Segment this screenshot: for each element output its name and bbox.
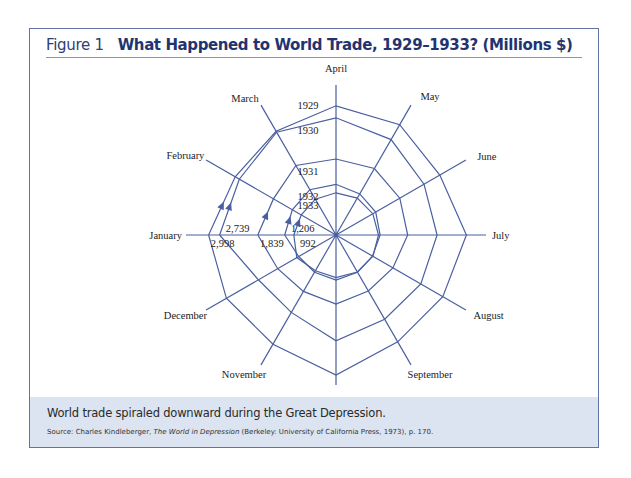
caption-box: World trade spiraled downward during the…: [30, 397, 598, 447]
month-label-may: May: [420, 91, 440, 102]
month-label-june: June: [477, 151, 497, 162]
january-value-1929: 2,998: [211, 238, 235, 249]
month-label-march: March: [231, 93, 259, 104]
month-label-august: August: [473, 310, 503, 321]
month-label-september: September: [408, 369, 453, 380]
arrow-icon: [225, 202, 232, 211]
source-text: Source: Charles Kindleberger, The World …: [47, 428, 433, 436]
month-label-january: January: [149, 230, 182, 241]
source-title: The World in Depression: [154, 428, 240, 436]
year-label-1930: 1930: [298, 125, 319, 136]
caption-text: World trade spiraled downward during the…: [47, 406, 386, 420]
january-value-1932: 1,206: [291, 223, 315, 234]
ring-1930: [220, 118, 438, 341]
january-value-1930: 2,739: [226, 223, 250, 234]
year-label-1929: 1929: [298, 100, 319, 111]
center-point: [334, 233, 338, 237]
year-label-1933: 1933: [298, 200, 319, 211]
year-label-1931: 1931: [298, 166, 319, 177]
ring-1929: [209, 106, 467, 375]
month-label-february: February: [166, 150, 205, 161]
january-value-1933: 992: [300, 238, 316, 249]
month-label-december: December: [164, 310, 208, 321]
spider-chart: JanuaryFebruaryMarchAprilMayJuneJulyAugu…: [30, 29, 600, 399]
ring-1931: [258, 159, 408, 304]
january-value-1931: 1,839: [260, 238, 284, 249]
month-label-april: April: [325, 63, 347, 74]
month-label-november: November: [222, 369, 267, 380]
month-label-july: July: [492, 230, 510, 241]
figure-frame: Figure 1 What Happened to World Trade, 1…: [29, 28, 599, 448]
